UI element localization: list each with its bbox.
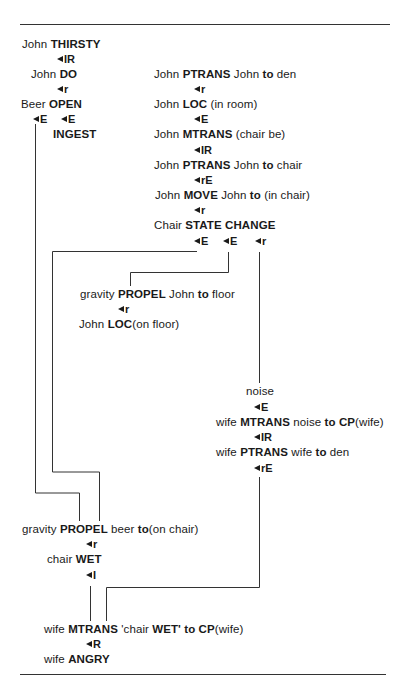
line-open-to-propel-beer xyxy=(36,124,80,521)
node-subject: wife xyxy=(216,446,240,458)
link-wet-i: I xyxy=(86,568,96,582)
node-to: to xyxy=(250,189,261,201)
link-ptrans-move: rE xyxy=(194,173,213,187)
arrow-left-icon xyxy=(194,86,200,92)
link-wife-ptrans-out: rE xyxy=(254,461,273,475)
node-to: to CP xyxy=(181,623,215,635)
link-mtrans-angry: R xyxy=(86,637,101,651)
node-location: (in room) xyxy=(207,98,257,110)
node-destination: floor xyxy=(209,288,235,300)
link-open-e1: E xyxy=(33,112,47,126)
link-label: rE xyxy=(261,462,273,474)
arrow-left-icon xyxy=(194,147,200,153)
link-label: E xyxy=(230,235,237,247)
node-subject: noise xyxy=(246,385,274,397)
node-act: WET xyxy=(76,553,102,565)
arrow-left-icon xyxy=(194,177,200,183)
node-john-thirsty: John THIRSTY xyxy=(22,37,101,51)
node-to: to xyxy=(262,68,273,80)
node-object: John xyxy=(218,189,250,201)
link-state-e1: E xyxy=(194,234,208,248)
link-mtrans-ptrans-wife: IR xyxy=(254,430,272,444)
node-loc-floor: John LOC(on floor) xyxy=(79,317,179,331)
arrow-left-icon xyxy=(86,641,92,647)
link-loc-mtrans: E xyxy=(194,112,208,126)
link-label: E xyxy=(40,113,47,125)
node-destination: den xyxy=(327,446,350,458)
node-subject: chair xyxy=(47,553,76,565)
node-to: to CP xyxy=(325,416,356,428)
arrow-left-icon xyxy=(86,541,92,547)
link-propel-wet: r xyxy=(86,537,97,551)
node-subject: John xyxy=(154,98,183,110)
link-noise-mtrans: E xyxy=(254,400,268,414)
link-label: rE xyxy=(201,174,213,186)
arrow-left-icon xyxy=(194,238,200,244)
node-act: ANGRY xyxy=(68,653,110,665)
link-label: r xyxy=(93,538,97,550)
link-label: IR xyxy=(201,144,212,156)
node-object: wife xyxy=(288,446,315,458)
node-object: noise xyxy=(290,416,325,428)
link-state-e2: E xyxy=(223,234,237,248)
node-object: beer xyxy=(108,523,138,535)
node-wife-mtrans-wet: wife MTRANS 'chair WET' to CP(wife) xyxy=(44,622,244,636)
node-subject: gravity xyxy=(22,523,60,535)
link-label: r xyxy=(125,303,129,315)
node-object: John xyxy=(166,288,198,300)
link-label: r xyxy=(262,235,266,247)
node-subject: John xyxy=(154,159,183,171)
node-act: PTRANS xyxy=(183,159,231,171)
arrow-left-icon xyxy=(33,116,39,122)
link-do-open: r xyxy=(57,82,68,96)
arrow-left-icon xyxy=(254,465,260,471)
node-john-do: John DO xyxy=(31,67,77,81)
node-to: to xyxy=(138,523,149,535)
node-subject: John xyxy=(154,68,183,80)
link-propel-loc: r xyxy=(118,302,129,316)
node-subject: Beer xyxy=(21,98,49,110)
link-label: E xyxy=(201,235,208,247)
node-destination: den xyxy=(274,68,297,80)
arrow-left-icon xyxy=(254,404,260,410)
node-to: to xyxy=(262,159,273,171)
node-object-act: WET' xyxy=(152,623,181,635)
node-act: INGEST xyxy=(53,128,96,140)
link-label: r xyxy=(201,83,205,95)
node-subject: John xyxy=(22,38,51,50)
node-act: PTRANS xyxy=(183,68,231,80)
node-act: OPEN xyxy=(49,98,82,110)
node-act: DO xyxy=(60,68,77,80)
node-noise: noise xyxy=(246,384,274,398)
node-destination: (in chair) xyxy=(261,189,310,201)
link-thirsty-do: IR xyxy=(57,52,75,66)
node-subject: wife xyxy=(44,653,68,665)
node-wife-mtrans-noise: wife MTRANS noise to CP(wife) xyxy=(216,415,384,429)
node-destination: (on chair) xyxy=(149,523,199,535)
node-ptrans-chair: John PTRANS John to chair xyxy=(154,158,302,172)
arrow-left-icon xyxy=(61,116,67,122)
arrow-left-icon xyxy=(254,434,260,440)
node-act: MOVE xyxy=(184,189,218,201)
link-move-state: r xyxy=(194,203,205,217)
link-label: E xyxy=(201,113,208,125)
node-to: to xyxy=(316,446,327,458)
arrow-left-icon xyxy=(223,238,229,244)
link-open-e2: E xyxy=(61,112,75,126)
node-move-chair: John MOVE John to (in chair) xyxy=(155,188,310,202)
arrow-left-icon xyxy=(194,207,200,213)
arrow-left-icon xyxy=(57,56,63,62)
node-subject: John xyxy=(79,318,108,330)
node-subject: wife xyxy=(44,623,68,635)
node-subject: gravity xyxy=(80,288,118,300)
link-label: I xyxy=(93,569,96,581)
node-location: (on floor) xyxy=(132,318,179,330)
line-wife-ptrans-to-mtrans xyxy=(107,477,260,621)
node-object: (chair be) xyxy=(232,128,285,140)
node-subject: John xyxy=(31,68,60,80)
node-mtrans-chair: John MTRANS (chair be) xyxy=(154,127,285,141)
link-label: r xyxy=(201,204,205,216)
node-destination: (wife) xyxy=(355,416,384,428)
line-state-e2-to-propel-john xyxy=(131,252,229,286)
node-propel-john: gravity PROPEL John to floor xyxy=(80,287,235,301)
